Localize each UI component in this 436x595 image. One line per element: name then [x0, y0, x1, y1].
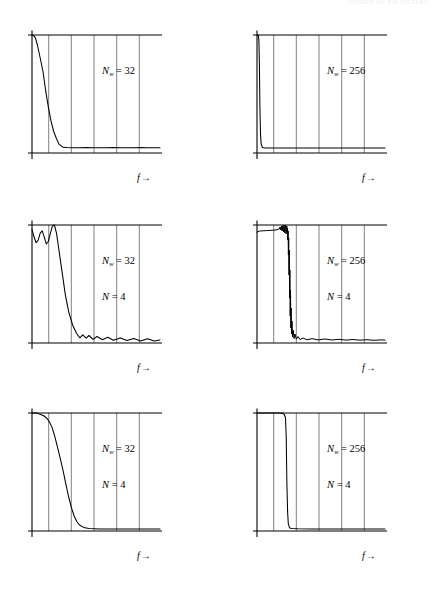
plot-svg-middle-left — [26, 220, 162, 351]
response-curve-middle-right — [257, 225, 385, 340]
nw-symbol: N — [102, 255, 109, 266]
nw-value: = 32 — [116, 65, 135, 76]
plot-panel-bottom-left: Nw = 32 N = 4 f→ — [16, 400, 181, 575]
response-curve-top-right — [257, 35, 385, 148]
n-value: = 4 — [337, 479, 351, 490]
label-n-bottom-left: N = 4 — [102, 480, 125, 491]
figure-page: DESIGN OF FIR FILTERS Nw = 32 f→ — [0, 0, 436, 595]
label-nw-bottom-left: Nw = 32 — [102, 444, 135, 455]
response-curve-bottom-left — [32, 413, 160, 529]
nw-value: = 256 — [341, 65, 365, 76]
n-value: = 4 — [112, 479, 126, 490]
response-curve-middle-left — [32, 225, 160, 341]
n-symbol: N — [102, 291, 109, 302]
gridlines-middle-right — [274, 225, 365, 343]
n-symbol: N — [327, 291, 334, 302]
plot-svg-bottom-left — [26, 408, 162, 539]
gridlines-middle-left — [49, 225, 140, 343]
nw-value: = 256 — [341, 255, 365, 266]
nw-subscript: w — [334, 448, 338, 455]
plot-area-bottom-right — [251, 408, 387, 539]
n-value: = 4 — [337, 291, 351, 302]
plot-area-top-right — [251, 30, 387, 161]
plot-area-middle-left — [26, 220, 162, 351]
n-value: = 4 — [112, 291, 126, 302]
x-axis-label-bottom-left: f→ — [137, 550, 151, 561]
x-axis-label-middle-left: f→ — [137, 362, 151, 373]
label-nw-top-left: Nw = 32 — [102, 66, 135, 77]
x-axis-label-bottom-right: f→ — [362, 550, 376, 561]
gridlines-top-right — [274, 35, 365, 153]
label-nw-middle-left: Nw = 32 — [102, 256, 135, 267]
plot-panel-top-left: Nw = 32 f→ — [16, 22, 181, 197]
plot-svg-top-right — [251, 30, 387, 161]
nw-symbol: N — [327, 443, 334, 454]
arrow-right-icon: → — [365, 550, 376, 561]
label-n-bottom-right: N = 4 — [327, 480, 350, 491]
nw-symbol: N — [102, 65, 109, 76]
nw-subscript: w — [109, 70, 113, 77]
plot-svg-bottom-right — [251, 408, 387, 539]
label-n-middle-left: N = 4 — [102, 292, 125, 303]
label-nw-middle-right: Nw = 256 — [327, 256, 365, 267]
nw-value: = 32 — [116, 255, 135, 266]
nw-subscript: w — [109, 448, 113, 455]
label-n-middle-right: N = 4 — [327, 292, 350, 303]
plot-panel-middle-left: Nw = 32 N = 4 f→ — [16, 212, 181, 387]
plot-area-middle-right — [251, 220, 387, 351]
arrow-right-icon: → — [365, 172, 376, 183]
nw-value: = 32 — [116, 443, 135, 454]
label-nw-bottom-right: Nw = 256 — [327, 444, 365, 455]
nw-symbol: N — [327, 255, 334, 266]
plot-svg-middle-right — [251, 220, 387, 351]
plot-area-top-left — [26, 30, 162, 161]
nw-value: = 256 — [341, 443, 365, 454]
gridlines-top-left — [49, 35, 140, 153]
nw-subscript: w — [109, 260, 113, 267]
arrow-right-icon: → — [365, 362, 376, 373]
arrow-right-icon: → — [140, 550, 151, 561]
plot-svg-top-left — [26, 30, 162, 161]
label-nw-top-right: Nw = 256 — [327, 66, 365, 77]
nw-symbol: N — [327, 65, 334, 76]
running-head: DESIGN OF FIR FILTERS — [349, 0, 428, 5]
x-axis-label-top-left: f→ — [137, 172, 151, 183]
nw-subscript: w — [334, 260, 338, 267]
arrow-right-icon: → — [140, 362, 151, 373]
n-symbol: N — [102, 479, 109, 490]
nw-symbol: N — [102, 443, 109, 454]
plot-panel-middle-right: Nw = 256 N = 4 f→ — [241, 212, 406, 387]
nw-subscript: w — [334, 70, 338, 77]
gridlines-bottom-left — [49, 413, 140, 531]
plot-panel-top-right: Nw = 256 f→ — [241, 22, 406, 197]
x-axis-label-middle-right: f→ — [362, 362, 376, 373]
x-axis-label-top-right: f→ — [362, 172, 376, 183]
arrow-right-icon: → — [140, 172, 151, 183]
response-curve-bottom-right — [257, 413, 385, 529]
response-curve-top-left — [32, 35, 160, 148]
plot-area-bottom-left — [26, 408, 162, 539]
n-symbol: N — [327, 479, 334, 490]
plot-panel-bottom-right: Nw = 256 N = 4 f→ — [241, 400, 406, 575]
